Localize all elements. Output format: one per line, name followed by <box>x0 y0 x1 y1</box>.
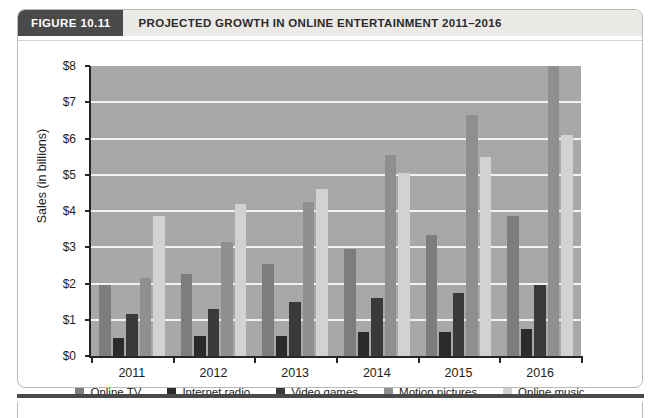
bar <box>153 216 165 356</box>
bar <box>262 264 274 356</box>
bar <box>113 338 125 356</box>
x-tick-label: 2015 <box>414 366 504 380</box>
figure-header: FIGURE 10.11 PROJECTED GROWTH IN ONLINE … <box>18 10 642 36</box>
y-tick-label: $7 <box>36 95 76 109</box>
bar <box>439 332 451 356</box>
bar <box>221 242 233 356</box>
bar <box>507 216 519 356</box>
y-tick-label: $3 <box>36 240 76 254</box>
y-tick-label: $1 <box>36 313 76 327</box>
x-tick-mark <box>254 356 256 363</box>
bar <box>140 278 152 356</box>
y-tick-label: $2 <box>36 277 76 291</box>
bar <box>276 336 288 356</box>
bar <box>126 314 138 356</box>
figure-title: PROJECTED GROWTH IN ONLINE ENTERTAINMENT… <box>123 10 642 36</box>
chart-body: Sales (in billions) $0$1$2$3$4$5$6$7$8 2… <box>18 41 642 387</box>
y-tick-mark <box>85 101 90 103</box>
bar <box>99 285 111 356</box>
y-tick-mark <box>85 138 90 140</box>
x-tick-mark <box>173 356 175 363</box>
gridline <box>91 174 581 176</box>
y-tick-label: $4 <box>36 204 76 218</box>
bar <box>426 235 438 356</box>
x-tick-mark <box>581 356 583 363</box>
x-tick-mark <box>91 356 93 363</box>
figure-card: FIGURE 10.11 PROJECTED GROWTH IN ONLINE … <box>17 9 643 388</box>
bar <box>316 189 328 356</box>
bar <box>289 302 301 356</box>
x-tick-mark <box>499 356 501 363</box>
x-tick-mark <box>418 356 420 363</box>
x-tick-label: 2012 <box>169 366 259 380</box>
bar <box>521 329 533 356</box>
y-tick-label: $8 <box>36 59 76 73</box>
figure-bottom-frame <box>17 402 643 418</box>
y-tick-label: $0 <box>36 349 76 363</box>
y-tick-mark <box>85 283 90 285</box>
bar <box>194 336 206 356</box>
y-tick-mark <box>85 65 90 67</box>
bar <box>534 285 546 356</box>
bar <box>466 115 478 356</box>
x-tick-label: 2011 <box>87 366 177 380</box>
bar <box>208 309 220 356</box>
y-tick-label: $5 <box>36 168 76 182</box>
bar <box>344 249 356 356</box>
y-tick-label: $6 <box>36 132 76 146</box>
gridline <box>91 210 581 212</box>
bar <box>358 332 370 356</box>
x-tick-label: 2013 <box>250 366 340 380</box>
x-tick-label: 2016 <box>495 366 585 380</box>
bar <box>480 157 492 356</box>
bar <box>181 274 193 356</box>
gridline <box>91 101 581 103</box>
bar <box>371 298 383 356</box>
bar <box>561 135 573 356</box>
y-tick-mark <box>85 210 90 212</box>
y-tick-mark <box>85 319 90 321</box>
figure-bottom-bar <box>17 394 644 398</box>
bar <box>303 202 315 356</box>
bar <box>398 173 410 356</box>
x-tick-mark <box>336 356 338 363</box>
y-tick-mark <box>85 355 90 357</box>
y-tick-mark <box>85 246 90 248</box>
bar <box>385 155 397 356</box>
x-tick-label: 2014 <box>332 366 422 380</box>
figure-number-badge: FIGURE 10.11 <box>18 10 123 36</box>
bar <box>453 293 465 356</box>
y-tick-mark <box>85 174 90 176</box>
bar <box>548 66 560 356</box>
gridline <box>91 138 581 140</box>
bar <box>235 204 247 356</box>
